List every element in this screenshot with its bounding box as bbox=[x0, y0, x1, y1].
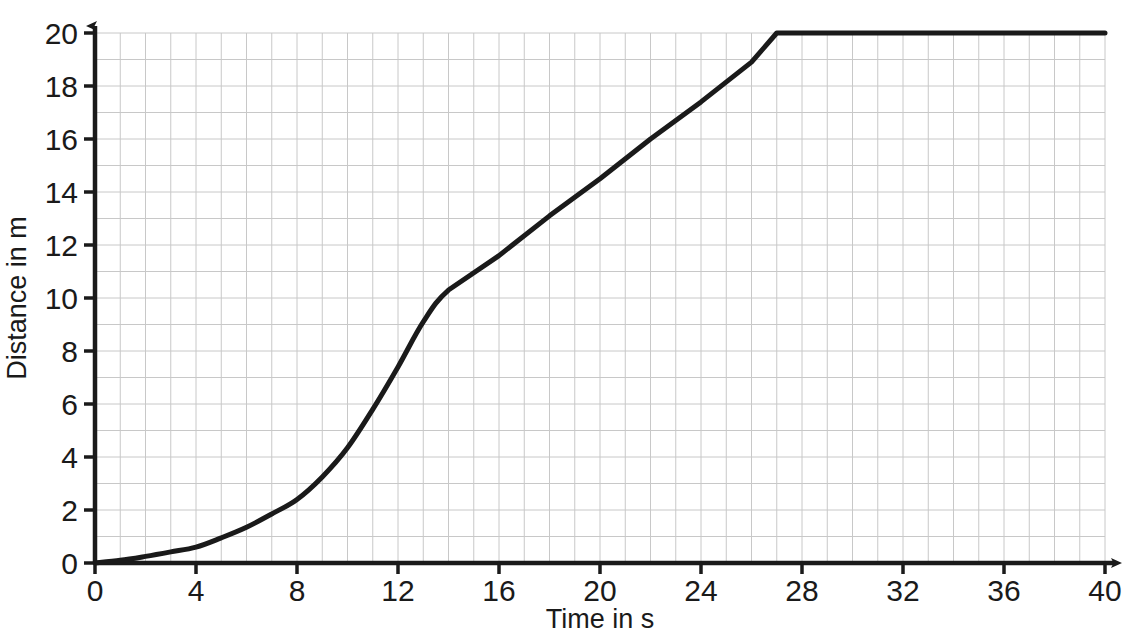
y-tick-label: 14 bbox=[45, 176, 78, 209]
y-axis-tick-labels: 02468101214161820 bbox=[45, 17, 78, 580]
x-tick-label: 8 bbox=[289, 574, 306, 607]
x-tick-label: 4 bbox=[188, 574, 205, 607]
x-axis-title: Time in s bbox=[546, 604, 655, 634]
y-tick-label: 6 bbox=[61, 388, 78, 421]
x-axis-tick-labels: 0481216202428323640 bbox=[87, 574, 1122, 607]
y-tick-label: 20 bbox=[45, 17, 78, 50]
y-tick-label: 8 bbox=[61, 335, 78, 368]
x-tick-label: 24 bbox=[684, 574, 717, 607]
x-tick-label: 20 bbox=[583, 574, 616, 607]
x-tick-label: 36 bbox=[987, 574, 1020, 607]
y-tick-label: 16 bbox=[45, 123, 78, 156]
y-tick-label: 18 bbox=[45, 70, 78, 103]
x-tick-label: 12 bbox=[381, 574, 414, 607]
grid-lines bbox=[95, 33, 1105, 563]
y-tick-label: 2 bbox=[61, 494, 78, 527]
y-tick-label: 12 bbox=[45, 229, 78, 262]
y-tick-label: 4 bbox=[61, 441, 78, 474]
x-tick-label: 40 bbox=[1088, 574, 1121, 607]
distance-time-chart: 0481216202428323640 02468101214161820 Ti… bbox=[0, 0, 1131, 637]
x-tick-label: 16 bbox=[482, 574, 515, 607]
x-tick-label: 0 bbox=[87, 574, 104, 607]
x-tick-label: 32 bbox=[886, 574, 919, 607]
y-tick-label: 10 bbox=[45, 282, 78, 315]
y-tick-label: 0 bbox=[61, 547, 78, 580]
x-tick-label: 28 bbox=[785, 574, 818, 607]
chart-canvas: 0481216202428323640 02468101214161820 Ti… bbox=[0, 0, 1131, 637]
y-axis-title: Distance in m bbox=[2, 216, 32, 380]
